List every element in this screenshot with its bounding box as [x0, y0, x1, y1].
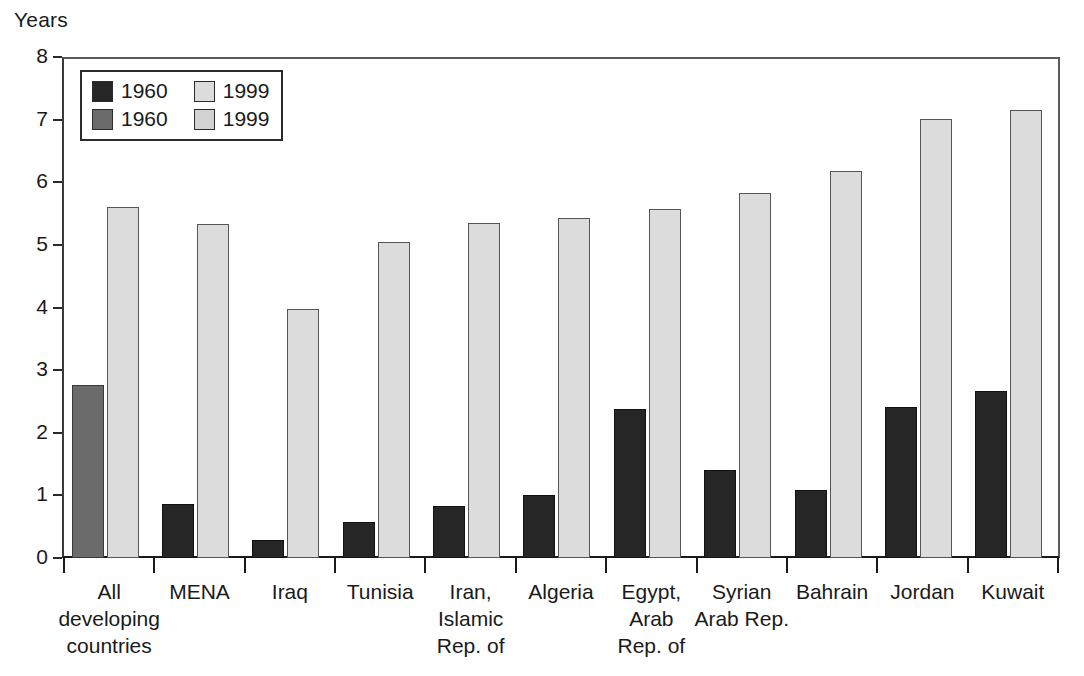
bar-1999 [287, 309, 319, 558]
legend-label: 1960 [121, 78, 168, 104]
y-tick-label: 2 [8, 419, 48, 445]
x-axis-tick [1057, 558, 1059, 573]
x-axis-tick [696, 558, 698, 573]
bar-1999 [468, 223, 500, 558]
x-axis-tick [605, 558, 607, 573]
bar-group [606, 57, 696, 558]
x-axis-tick [424, 558, 426, 573]
bar-1999 [1010, 110, 1042, 558]
x-axis-label: All developing countries [58, 578, 160, 659]
y-tick-mark [53, 369, 62, 371]
bar-1999 [197, 224, 229, 558]
bar-1960 [614, 409, 646, 558]
y-axis-title: Years [14, 8, 68, 32]
y-tick-mark [53, 432, 62, 434]
y-tick-mark [53, 56, 62, 58]
y-tick-label: 8 [8, 43, 48, 69]
y-tick-label: 1 [8, 481, 48, 507]
y-tick-mark [53, 557, 62, 559]
bar-group [697, 57, 787, 558]
bar-1960 [704, 470, 736, 558]
y-tick-mark [53, 494, 62, 496]
x-axis-tick [967, 558, 969, 573]
legend-item: 1960 [92, 106, 168, 132]
y-tick-label: 4 [8, 294, 48, 320]
legend-label: 1999 [223, 78, 270, 104]
x-axis-label: Kuwait [962, 578, 1064, 605]
x-axis-label: Tunisia [329, 578, 431, 605]
x-axis-label: MENA [148, 578, 250, 605]
x-axis-tick [515, 558, 517, 573]
bar-1960 [72, 385, 104, 558]
legend: 1960199919601999 [80, 70, 283, 141]
x-axis-tick [63, 558, 65, 573]
bar-group [968, 57, 1058, 558]
y-tick-mark [53, 181, 62, 183]
bar-1999 [378, 242, 410, 558]
bar-1999 [107, 207, 139, 558]
legend-grid: 1960199919601999 [92, 78, 269, 132]
bar-group [787, 57, 877, 558]
legend-swatch-icon [194, 81, 215, 102]
legend-label: 1960 [121, 106, 168, 132]
bar-1999 [739, 193, 771, 558]
x-axis-tick [876, 558, 878, 573]
bar-group [516, 57, 606, 558]
legend-swatch-icon [92, 109, 113, 130]
bar-chart: Years 012345678 All developing countries… [0, 0, 1084, 676]
x-axis-tick [786, 558, 788, 573]
x-axis-label: Syrian Arab Rep. [691, 578, 793, 632]
y-tick-label: 7 [8, 106, 48, 132]
legend-item: 1960 [92, 78, 168, 104]
y-tick-mark [53, 119, 62, 121]
y-tick-label: 6 [8, 168, 48, 194]
y-tick-mark [53, 244, 62, 246]
x-axis-label: Bahrain [781, 578, 883, 605]
x-axis-label: Iraq [239, 578, 341, 605]
bar-1960 [162, 504, 194, 558]
bar-1960 [523, 495, 555, 558]
bar-1960 [252, 540, 284, 558]
legend-swatch-icon [194, 109, 215, 130]
bar-1960 [885, 407, 917, 558]
bar-1960 [975, 391, 1007, 558]
legend-label: 1999 [223, 106, 270, 132]
y-tick-label: 0 [8, 544, 48, 570]
legend-item: 1999 [194, 78, 270, 104]
legend-item: 1999 [194, 106, 270, 132]
bar-group [335, 57, 425, 558]
legend-swatch-icon [92, 81, 113, 102]
x-axis-tick [244, 558, 246, 573]
y-tick-label: 3 [8, 356, 48, 382]
x-axis-label: Iran, Islamic Rep. of [419, 578, 521, 659]
bar-1999 [830, 171, 862, 558]
y-tick-label: 5 [8, 231, 48, 257]
bar-1960 [343, 522, 375, 558]
x-axis-label: Jordan [871, 578, 973, 605]
bar-1960 [795, 490, 827, 558]
bar-group [425, 57, 515, 558]
bar-group [877, 57, 967, 558]
x-axis-tick [153, 558, 155, 573]
x-axis-tick [334, 558, 336, 573]
bar-1960 [433, 506, 465, 558]
bar-1999 [920, 119, 952, 558]
x-axis-label: Egypt, Arab Rep. of [600, 578, 702, 659]
bar-1999 [649, 209, 681, 558]
bar-1999 [558, 218, 590, 558]
y-tick-mark [53, 307, 62, 309]
x-axis-label: Algeria [510, 578, 612, 605]
